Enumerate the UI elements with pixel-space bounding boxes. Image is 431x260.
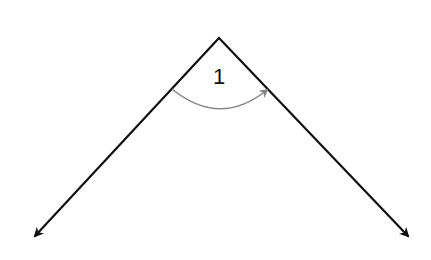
angle-label: 1	[213, 64, 225, 89]
left-ray	[35, 38, 219, 236]
right-ray	[219, 38, 408, 236]
angle-arc-arrow	[172, 89, 267, 109]
angle-diagram: 1	[0, 0, 431, 260]
